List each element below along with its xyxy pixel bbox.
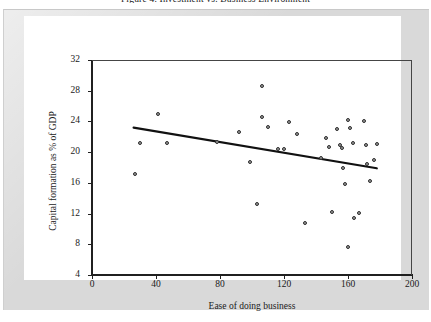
x-tick-label: 40: [136, 279, 176, 289]
y-axis-label: Capital formation as % of GDP: [48, 76, 58, 266]
scatter-point: [276, 147, 280, 151]
scatter-point: [357, 211, 361, 215]
scatter-point: [138, 141, 142, 145]
x-tick-label: 0: [72, 279, 112, 289]
y-tick-label: 28: [40, 85, 80, 95]
scatter-point: [330, 210, 334, 214]
y-tick-label: 8: [40, 238, 80, 248]
scatter-point: [346, 245, 350, 249]
scatter-point: [340, 146, 344, 150]
scatter-point: [215, 140, 219, 144]
scatter-point: [266, 125, 270, 129]
y-tick-label: 12: [40, 208, 80, 218]
y-tick-label: 16: [40, 177, 80, 187]
y-tick: [88, 183, 92, 184]
y-tick: [88, 244, 92, 245]
scatter-point: [365, 162, 369, 166]
trendline: [92, 60, 412, 275]
scatter-point: [351, 141, 355, 145]
scatter-point: [287, 120, 291, 124]
scatter-point: [255, 202, 259, 206]
y-tick: [88, 91, 92, 92]
scatter-point: [319, 156, 323, 160]
scatter-point: [348, 126, 352, 130]
y-tick: [88, 60, 92, 61]
scatter-point: [260, 84, 264, 88]
y-tick: [88, 121, 92, 122]
x-tick-label: 160: [328, 279, 368, 289]
x-axis-label: Ease of doing business: [92, 301, 412, 311]
y-tick: [88, 214, 92, 215]
scatter-point: [364, 143, 368, 147]
figure-title: Figure 4. Investment vs. Business Enviro…: [0, 0, 431, 3]
y-tick-label: 24: [40, 115, 80, 125]
figure-container: Figure 4. Investment vs. Business Enviro…: [0, 0, 431, 322]
y-tick-label: 20: [40, 146, 80, 156]
chart-card: Capital formation as % of GDP Ease of do…: [24, 16, 401, 280]
plot-area: 4812162024283204080120160200: [92, 60, 412, 275]
x-tick-label: 80: [200, 279, 240, 289]
y-tick-label: 32: [40, 54, 80, 64]
y-tick: [88, 152, 92, 153]
y-tick-label: 4: [40, 269, 80, 279]
scatter-point: [324, 136, 328, 140]
x-tick-label: 120: [264, 279, 304, 289]
scatter-point: [335, 127, 339, 131]
scatter-point: [260, 115, 264, 119]
x-tick-label: 200: [392, 279, 431, 289]
scatter-point: [346, 118, 350, 122]
scatter-point: [372, 158, 376, 162]
scatter-point: [156, 112, 160, 116]
scatter-point: [303, 221, 307, 225]
scatter-point: [327, 145, 331, 149]
